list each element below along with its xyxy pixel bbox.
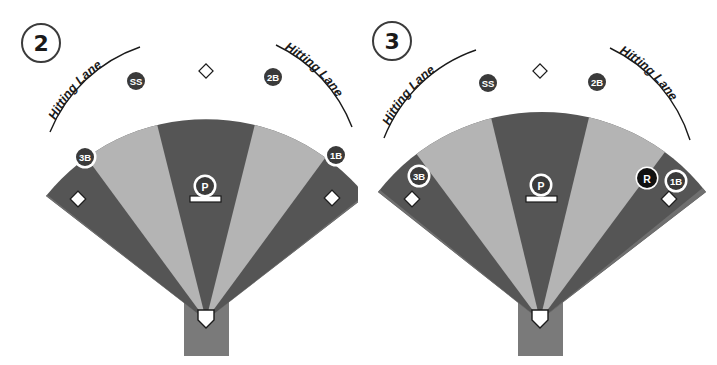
fielder-marker-2b[interactable]: 2B	[586, 71, 609, 94]
runner-label-r: R	[643, 173, 651, 185]
fielder-marker-2b[interactable]: 2B	[262, 66, 285, 89]
fielder-label-1b: 1B	[330, 150, 342, 161]
hitting-lane-right-label: Hitting Lane	[283, 40, 346, 100]
hitting-lane-right-label: Hitting Lane	[617, 43, 680, 103]
second-base-bag	[533, 64, 547, 78]
fielder-label-3b: 3B	[79, 152, 91, 163]
fielder-label-1b: 1B	[670, 176, 682, 187]
fielder-label-p: P	[537, 180, 544, 192]
fielder-label-2b: 2B	[267, 72, 279, 83]
step-number-badge-3: 3	[372, 21, 412, 61]
fielder-marker-1b[interactable]: 1B	[325, 144, 348, 167]
panel-step-2: Hitting Lane Hitting Lane SS 2B	[0, 0, 358, 365]
field-diagram-3: Hitting Lane Hitting Lane SS 2B	[358, 0, 716, 365]
diagram-board: Hitting Lane Hitting Lane SS 2B	[0, 0, 717, 365]
fielder-label-ss: SS	[130, 76, 143, 87]
hitting-lane-left-label: Hitting Lane	[380, 62, 438, 127]
fielder-label-2b: 2B	[591, 77, 603, 88]
runner-marker-r[interactable]: R	[636, 167, 659, 190]
hitting-lane-left-label: Hitting Lane	[46, 57, 104, 121]
fielder-label-3b: 3B	[413, 171, 425, 182]
second-base-bag	[199, 64, 213, 78]
step-number-badge-2: 2	[21, 23, 61, 63]
pitching-rubber	[526, 196, 557, 202]
fielder-label-p: P	[201, 181, 208, 193]
fielder-marker-1b[interactable]: 1B	[665, 170, 688, 193]
fielder-marker-p[interactable]: P	[194, 175, 217, 198]
fielder-marker-3b[interactable]: 3B	[74, 146, 97, 169]
fielder-marker-p[interactable]: P	[530, 174, 553, 197]
fielder-marker-ss[interactable]: SS	[477, 72, 500, 95]
fielder-marker-ss[interactable]: SS	[125, 70, 148, 93]
panel-step-3: Hitting Lane Hitting Lane SS 2B	[358, 0, 716, 365]
fielder-marker-3b[interactable]: 3B	[408, 165, 431, 188]
fielder-label-ss: SS	[482, 78, 495, 89]
